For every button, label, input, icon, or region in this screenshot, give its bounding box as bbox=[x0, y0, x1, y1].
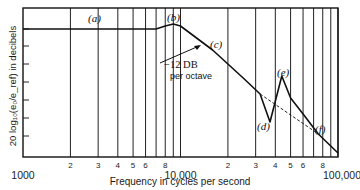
y-axis-label: 20 log₁₀(e₀/e_ref) in decibels bbox=[7, 11, 19, 161]
annotation-e: (e) bbox=[277, 66, 290, 79]
vertical-gridlines bbox=[70, 8, 338, 157]
x-minor-tick-label: 2 bbox=[68, 161, 73, 170]
x-minor-tick-label: 6 bbox=[301, 161, 306, 170]
x-axis-label: Frequency in cycles per second bbox=[0, 176, 360, 187]
x-minor-tick-label: 3 bbox=[253, 161, 258, 170]
x-minor-tick-label: 4 bbox=[116, 161, 121, 170]
x-minor-tick-label: 5 bbox=[288, 161, 293, 170]
annotation-b: (b) bbox=[167, 11, 180, 24]
slope-label-octave: per octave bbox=[170, 71, 212, 81]
frequency-response-chart: (a) (b) (c) (d) (e) (f) −12 DB per octav… bbox=[0, 0, 360, 190]
annotation-a: (a) bbox=[88, 12, 101, 25]
annotation-c: (c) bbox=[210, 38, 223, 51]
annotation-f: (f) bbox=[315, 123, 326, 136]
x-minor-tick-label: 6 bbox=[143, 161, 148, 170]
x-minor-tick-label: 3 bbox=[96, 161, 101, 170]
annotation-d: (d) bbox=[257, 120, 270, 133]
x-minor-tick-label: 2 bbox=[226, 161, 231, 170]
x-minor-tick-label: 5 bbox=[131, 161, 136, 170]
x-minor-tick-label: 4 bbox=[273, 161, 278, 170]
chart-svg: (a) (b) (c) (d) (e) (f) −12 DB per octav… bbox=[0, 0, 360, 190]
y-ticks bbox=[23, 29, 29, 136]
slope-label-db: −12 DB bbox=[164, 59, 198, 70]
